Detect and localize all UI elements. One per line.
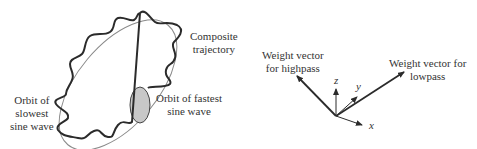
label-line: Orbit of fastest [156, 92, 222, 105]
label-line: Orbit of [10, 94, 54, 107]
lowpass-vector-label: Weight vector for lowpass [389, 57, 466, 83]
y-axis-label: y [356, 80, 361, 92]
z-axis-label: z [334, 74, 338, 86]
fastest-orbit-label: Orbit of fastest sine wave [156, 92, 222, 118]
label-line: sine wave [10, 120, 54, 133]
label-line: Weight vector for [389, 57, 466, 70]
y-axis [336, 97, 357, 116]
label-line: Weight vector [262, 49, 324, 62]
label-line: Composite [190, 30, 238, 43]
composite-trajectory-path [55, 12, 181, 139]
label-line: lowpass [389, 70, 466, 83]
label-line: trajectory [190, 43, 238, 56]
slowest-orbit-label: Orbit of slowest sine wave [10, 94, 54, 133]
composite-trajectory-label: Composite trajectory [190, 30, 238, 56]
slowest-orbit-ellipse [37, 0, 199, 149]
x-axis [336, 116, 362, 125]
highpass-vector [297, 76, 336, 116]
label-line: for highpass [262, 62, 324, 75]
highpass-vector-label: Weight vector for highpass [262, 49, 324, 75]
label-line: sine wave [156, 105, 222, 118]
label-line: slowest [10, 107, 54, 120]
x-axis-label: x [369, 119, 374, 131]
